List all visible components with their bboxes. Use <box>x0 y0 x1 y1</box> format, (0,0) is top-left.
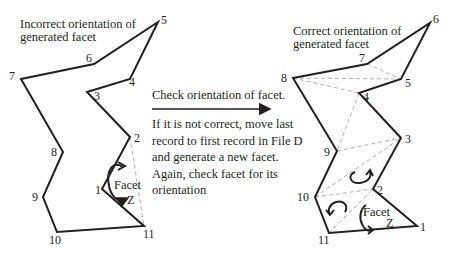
vertex-label-3: 3 <box>94 89 100 103</box>
right-figure-title: Correct orientation of generated facet <box>293 25 401 51</box>
vertex-label-6: 6 <box>433 12 439 26</box>
vertex-label-4: 4 <box>363 90 369 104</box>
vertex-label-2: 2 <box>134 131 140 145</box>
vertex-label-5: 5 <box>161 13 167 27</box>
vertex-label-6: 6 <box>86 51 92 65</box>
vertex-label-11: 11 <box>143 227 155 241</box>
left-facet-label: Facet <box>114 178 141 192</box>
left-vertex-labels: 1234567891011 <box>9 13 167 247</box>
vertex-label-8: 8 <box>281 71 287 85</box>
instruction-line-2: record to first record in File D <box>152 133 303 150</box>
dashed-edge-10-2 <box>315 189 373 197</box>
instruction-text: If it is not correct, move last record t… <box>152 116 303 199</box>
instruction-line-5: orientation <box>152 182 303 199</box>
instruction-line-3: and generate a new facet. <box>152 149 303 166</box>
dashed-edge-8-4 <box>293 78 359 93</box>
vertex-label-11: 11 <box>318 233 330 247</box>
left-figure-title: Incorrect orientation of generated facet <box>20 18 136 44</box>
dashed-edge-7-5 <box>367 64 401 79</box>
dashed-edge-8-5 <box>293 78 401 79</box>
left-figure: 1234567891011 <box>9 13 167 247</box>
vertex-label-9: 9 <box>324 145 330 159</box>
vertex-label-7: 7 <box>359 51 365 65</box>
vertex-label-2: 2 <box>377 183 383 197</box>
right-title-line2: generated facet <box>293 38 401 51</box>
vertex-label-7: 7 <box>9 69 15 83</box>
vertex-label-1: 1 <box>95 183 101 197</box>
instruction-line-4: Again, check facet for its <box>152 166 303 183</box>
left-facet-name: Z <box>127 193 135 207</box>
vertex-label-5: 5 <box>405 76 411 90</box>
instruction-line-1: If it is not correct, move last <box>152 116 303 133</box>
left-title-line2: generated facet <box>20 31 136 44</box>
right-facet-name: Z <box>386 216 394 230</box>
vertex-label-4: 4 <box>129 75 135 89</box>
vertex-label-8: 8 <box>51 145 57 159</box>
vertex-label-1: 1 <box>420 220 426 234</box>
vertex-label-10: 10 <box>49 233 61 247</box>
vertex-label-9: 9 <box>32 190 38 204</box>
vertex-label-3: 3 <box>405 132 411 146</box>
arrow-label: Check orientation of facet. <box>152 88 285 102</box>
dashed-edge-4-9 <box>337 93 359 151</box>
